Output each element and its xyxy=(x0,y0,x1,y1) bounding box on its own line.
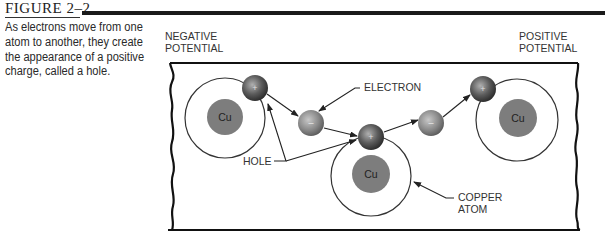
svg-text:NEGATIVE: NEGATIVE xyxy=(165,30,217,42)
hole-label: HOLE xyxy=(243,104,356,167)
svg-text:–: – xyxy=(308,118,313,128)
svg-text:+: + xyxy=(252,83,257,93)
svg-text:POTENTIAL: POTENTIAL xyxy=(165,42,224,54)
electron-left: – xyxy=(298,110,324,136)
svg-text:+: + xyxy=(368,132,373,142)
svg-text:COPPER: COPPER xyxy=(458,191,503,203)
hole-left: + xyxy=(242,75,268,101)
svg-text:ELECTRON: ELECTRON xyxy=(364,81,421,93)
svg-text:–: – xyxy=(428,118,433,128)
svg-text:Cu: Cu xyxy=(218,111,232,123)
copper-atom-label: COPPER ATOM xyxy=(414,182,503,215)
negative-potential-label: NEGATIVE POTENTIAL xyxy=(165,30,224,54)
svg-text:HOLE: HOLE xyxy=(243,155,272,167)
svg-text:Cu: Cu xyxy=(511,112,525,124)
hole-right: + xyxy=(470,76,496,102)
svg-text:POSITIVE: POSITIVE xyxy=(519,30,567,42)
positive-potential-label: POSITIVE POTENTIAL xyxy=(519,30,578,54)
svg-text:Cu: Cu xyxy=(364,168,378,180)
hole-flow-diagram: NEGATIVE POTENTIAL POSITIVE POTENTIAL Cu… xyxy=(0,0,605,242)
electron-label: ELECTRON xyxy=(319,81,421,111)
svg-text:+: + xyxy=(480,84,485,94)
svg-text:ATOM: ATOM xyxy=(458,203,487,215)
electron-right: – xyxy=(418,110,444,136)
svg-text:POTENTIAL: POTENTIAL xyxy=(519,42,578,54)
hole-middle: + xyxy=(358,124,384,150)
